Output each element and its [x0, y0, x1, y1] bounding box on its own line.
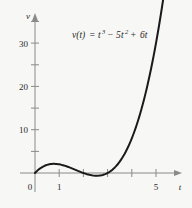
y-axis-label: v — [26, 11, 30, 21]
x-tick-label-0: 0 — [28, 182, 33, 192]
cubic-velocity-graph: 10 20 30 v 0 1 5 t v(t) = t 3 − 5 t 2 — [0, 0, 192, 208]
x-tick-label-5: 5 — [154, 182, 159, 192]
x-tick-label-1: 1 — [57, 182, 62, 192]
y-tick-label-10: 10 — [19, 125, 29, 135]
equation-operator-minus: − — [107, 30, 113, 40]
y-tick-label-30: 30 — [19, 39, 29, 49]
equation-equals: = — [89, 30, 95, 40]
equation-lhs: v(t) — [72, 30, 85, 41]
figure-background — [0, 0, 192, 208]
equation-term2-base: t — [121, 30, 124, 40]
equation-annotation: v(t) = t 3 − 5 t 2 + 6t — [72, 28, 148, 41]
equation-operator-plus: + — [130, 30, 136, 40]
graph-canvas: 10 20 30 v 0 1 5 t v(t) = t 3 − 5 t 2 — [0, 0, 192, 208]
equation-term3: 6t — [140, 30, 148, 40]
y-tick-label-20: 20 — [19, 82, 29, 92]
equation-term1-base: t — [98, 30, 101, 40]
